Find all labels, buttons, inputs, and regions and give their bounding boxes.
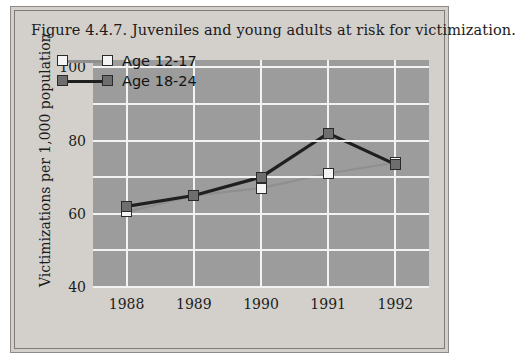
x-axis-tick-label: 1992 (378, 296, 414, 312)
legend-marker-light-start (57, 55, 68, 66)
x-axis-tick-label: 1990 (243, 296, 279, 312)
legend-label-age-18-24: Age 18-24 (122, 73, 197, 89)
y-axis-tick-label: 40 (68, 279, 86, 295)
legend-marker-dark-end (102, 75, 113, 86)
legend-item-age-12-17: Age 12-17 (57, 51, 197, 71)
x-axis-tick-label: 1988 (109, 296, 145, 312)
x-axis-tick-label: 1991 (310, 296, 346, 312)
data-point-marker (188, 190, 199, 201)
legend-swatch-dark (57, 74, 113, 88)
y-axis-tick-label: 80 (68, 133, 86, 149)
data-point-marker (121, 201, 132, 212)
data-point-marker (256, 172, 267, 183)
gridline-vertical (193, 60, 195, 287)
legend-marker-dark-start (57, 75, 68, 86)
chart-legend: Age 12-17 Age 18-24 (57, 51, 197, 91)
x-axis-tick-label: 1989 (176, 296, 212, 312)
figure-inner-border: Figure 4.4.7. Juveniles and young adults… (14, 10, 445, 349)
gridline-vertical (394, 60, 396, 287)
legend-item-age-18-24: Age 18-24 (57, 71, 197, 91)
data-point-marker (323, 128, 334, 139)
legend-label-age-12-17: Age 12-17 (122, 53, 197, 69)
plot-area: 40608010019881989199019911992 (93, 60, 429, 287)
data-point-marker (323, 168, 334, 179)
gridline-vertical (126, 60, 128, 287)
legend-swatch-light (57, 54, 113, 68)
chart-area: Victimizations per 1,000 population 4060… (15, 11, 448, 352)
figure-frame: Figure 4.4.7. Juveniles and young adults… (10, 6, 449, 353)
y-axis-title: Victimizations per 1,000 population (37, 60, 55, 287)
y-axis-tick-label: 60 (68, 206, 86, 222)
data-point-marker (256, 183, 267, 194)
legend-marker-light-end (102, 55, 113, 66)
data-point-marker (390, 159, 401, 170)
